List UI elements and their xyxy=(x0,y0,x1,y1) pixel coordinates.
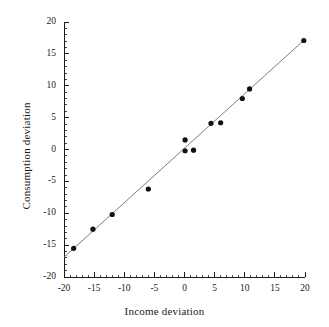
x-tick-label: 10 xyxy=(240,284,250,294)
y-axis-title: Consumption deviation xyxy=(20,76,32,236)
data-point xyxy=(71,246,76,251)
scatter-chart-figure: -20-15-10-505101520-20-15-10-505101520 I… xyxy=(0,0,329,327)
data-point xyxy=(191,148,196,153)
x-axis-ticks xyxy=(64,272,305,277)
data-point xyxy=(247,86,252,91)
regression-line xyxy=(64,39,305,257)
data-point xyxy=(218,120,223,125)
x-tick-label: 5 xyxy=(212,284,217,294)
y-tick-label: -20 xyxy=(22,272,56,282)
axis-lines xyxy=(64,22,305,277)
data-point xyxy=(240,96,245,101)
x-tick-label: -10 xyxy=(118,284,131,294)
data-point xyxy=(183,148,188,153)
data-point xyxy=(146,186,151,191)
x-tick-label: -5 xyxy=(150,284,158,294)
y-axis-ticks xyxy=(64,22,69,277)
x-tick-label: -15 xyxy=(88,284,101,294)
regression-line-segment xyxy=(64,39,305,257)
y-tick-label: 15 xyxy=(22,49,56,59)
data-points xyxy=(71,38,306,251)
x-tick-label: -20 xyxy=(58,284,71,294)
data-point xyxy=(208,121,213,126)
y-tick-label: -15 xyxy=(22,240,56,250)
data-point xyxy=(183,137,188,142)
data-point xyxy=(90,227,95,232)
data-point xyxy=(110,212,115,217)
y-tick-label: 20 xyxy=(22,17,56,27)
x-axis-title: Income deviation xyxy=(0,305,329,317)
x-tick-label: 0 xyxy=(182,284,187,294)
x-tick-label: 15 xyxy=(270,284,280,294)
x-tick-label: 20 xyxy=(300,284,310,294)
data-point xyxy=(301,38,306,43)
